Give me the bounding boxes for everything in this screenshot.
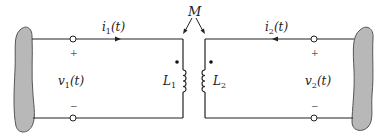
inductor-l1-coil (183, 70, 186, 92)
v2-minus-sign: − (311, 101, 319, 111)
v2-label: v2(t) (305, 74, 331, 90)
left-network-blob (14, 27, 34, 132)
left-top-terminal (70, 36, 76, 42)
right-wires (205, 39, 354, 118)
v1-label: v1(t) (58, 74, 84, 90)
v2-plus-sign: + (311, 48, 319, 58)
right-bottom-terminal (311, 115, 317, 121)
l1-label: L1 (162, 74, 176, 90)
left-bottom-terminal (70, 115, 76, 121)
i2-arrow-icon (272, 37, 278, 42)
mutual-arrows (185, 18, 203, 31)
l2-label: L2 (212, 74, 226, 90)
v1-plus-sign: + (70, 48, 78, 58)
l1-polarity-dot (175, 60, 179, 64)
v1-minus-sign: − (70, 101, 78, 111)
mutual-label: M (187, 4, 202, 19)
inductor-l2-coil (202, 70, 205, 92)
i1-arrow-icon (115, 37, 121, 42)
l2-polarity-dot (209, 60, 213, 64)
i1-label: i1(t) (102, 20, 125, 36)
m-arrowhead-left-icon (183, 29, 188, 35)
i2-label: i2(t) (265, 20, 288, 36)
coupled-inductor-diagram: M i1(t) i2(t) v1(t) v2(t) L1 L2 + − + − (0, 0, 389, 136)
right-top-terminal (311, 36, 317, 42)
m-arrowhead-right-icon (201, 29, 206, 35)
right-network-blob (352, 27, 373, 130)
left-wires (32, 39, 183, 118)
